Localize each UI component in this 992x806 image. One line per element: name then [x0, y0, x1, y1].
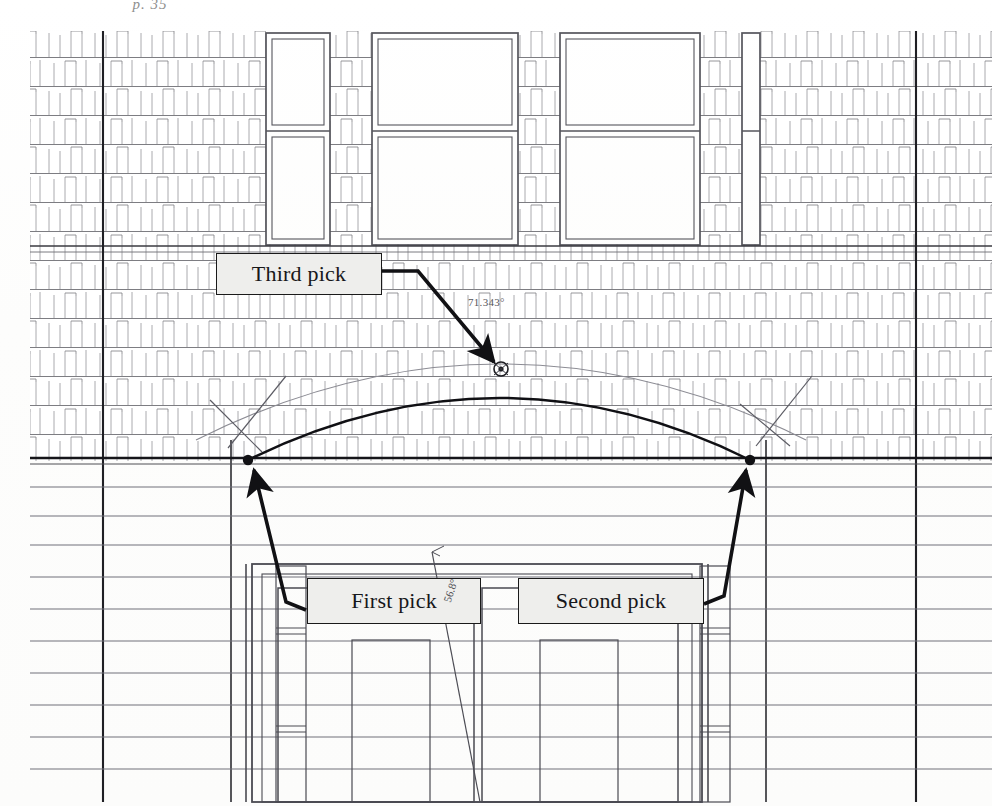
- callout-third-pick[interactable]: Third pick: [216, 253, 382, 295]
- elevation-linework: [0, 0, 992, 806]
- arc-angle-annotation: 71.343°: [468, 296, 505, 308]
- callout-first-pick-label: First pick: [351, 588, 437, 614]
- siding-courses: [30, 487, 992, 769]
- second-pick-arrow: [704, 470, 746, 604]
- callout-third-pick-label: Third pick: [252, 261, 346, 287]
- callout-second-pick-label: Second pick: [556, 588, 666, 614]
- second-pick-point: [745, 455, 755, 465]
- callout-second-pick[interactable]: Second pick: [518, 578, 704, 624]
- drawing-sheet: p. 35: [0, 0, 992, 806]
- first-pick-point: [243, 455, 253, 465]
